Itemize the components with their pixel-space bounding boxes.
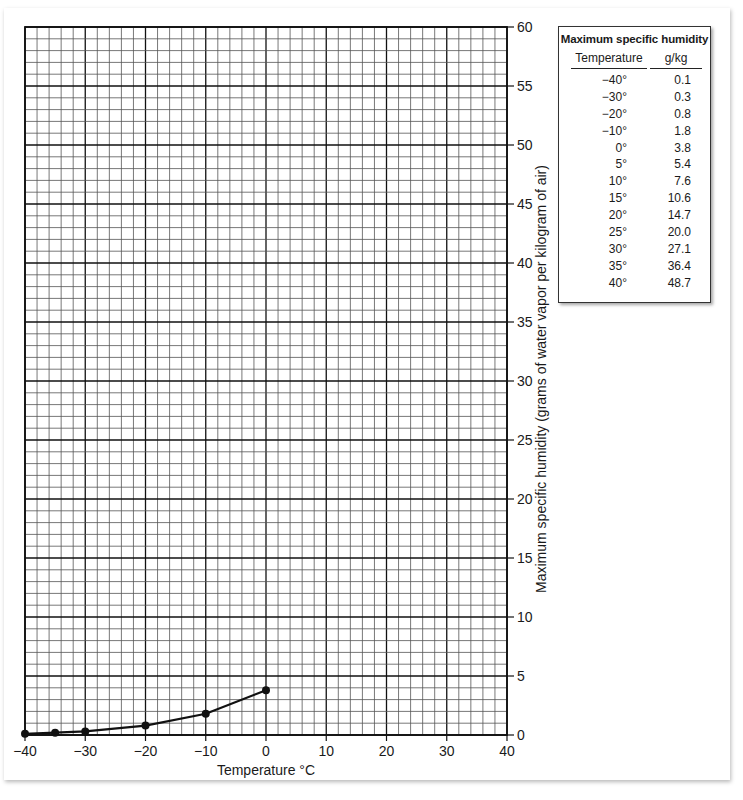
table-row: 0°3.8 [559,140,710,157]
axis-ticks: −40−30−20−100102030400510152025303540455… [13,19,533,759]
cell-value: 14.7 [627,207,691,224]
table-row: 35°36.4 [559,258,710,275]
cell-temperature: 20° [559,207,627,224]
cell-value: 5.4 [627,156,691,173]
x-tick-label: 10 [318,743,334,759]
cell-value: 36.4 [627,258,691,275]
table-row: 10°7.6 [559,173,710,190]
y-tick-label: 40 [517,255,533,271]
table-row: 15°10.6 [559,190,710,207]
cell-temperature: −30° [559,89,627,106]
cell-value: 10.6 [627,190,691,207]
cell-temperature: 10° [559,173,627,190]
table-row: 40°48.7 [559,275,710,292]
cell-temperature: 40° [559,275,627,292]
cell-temperature: −20° [559,106,627,123]
data-point-marker [21,730,29,738]
cell-value: 3.8 [627,140,691,157]
table-title: Maximum specific humidity [559,33,710,45]
cell-value: 1.8 [627,123,691,140]
humidity-data-table: Maximum specific humidity Temperature g/… [558,26,711,303]
data-point-marker [51,729,59,737]
y-tick-label: 5 [517,668,525,684]
y-tick-label: 50 [517,137,533,153]
cell-value: 0.1 [627,72,691,89]
data-point-marker [142,722,150,730]
table-row: 25°20.0 [559,224,710,241]
table-row: 5°5.4 [559,156,710,173]
data-point-marker [81,727,89,735]
table-row: −20°0.8 [559,106,710,123]
cell-temperature: 5° [559,156,627,173]
table-row: −10°1.8 [559,123,710,140]
x-tick-label: −10 [194,743,218,759]
table-body: −40°0.1−30°0.3−20°0.8−10°1.80°3.85°5.410… [559,72,710,292]
y-tick-label: 10 [517,609,533,625]
y-tick-label: 45 [517,196,533,212]
x-tick-label: 0 [262,743,270,759]
x-tick-label: −40 [13,743,37,759]
column-header-gkg: g/kg [650,51,702,69]
y-tick-label: 15 [517,550,533,566]
data-point-marker [202,710,210,718]
cell-temperature: 25° [559,224,627,241]
x-tick-label: −20 [134,743,158,759]
cell-value: 48.7 [627,275,691,292]
x-tick-label: 20 [379,743,395,759]
x-tick-label: 40 [499,743,515,759]
y-tick-label: 35 [517,314,533,330]
table-row: 30°27.1 [559,241,710,258]
table-row: 20°14.7 [559,207,710,224]
y-tick-label: 25 [517,432,533,448]
x-tick-label: 30 [439,743,455,759]
y-tick-label: 30 [517,373,533,389]
y-tick-label: 0 [517,727,525,743]
cell-temperature: 0° [559,140,627,157]
data-point-marker [262,686,270,694]
y-axis-label: Maximum specific humidity (grams of wate… [533,165,549,593]
table-row: −40°0.1 [559,72,710,89]
cell-value: 7.6 [627,173,691,190]
cell-value: 0.3 [627,89,691,106]
y-tick-label: 55 [517,78,533,94]
x-tick-label: −30 [73,743,97,759]
table-row: −30°0.3 [559,89,710,106]
cell-value: 0.8 [627,106,691,123]
cell-value: 20.0 [627,224,691,241]
cell-value: 27.1 [627,241,691,258]
y-tick-label: 60 [517,19,533,35]
chart-grid [25,27,507,735]
cell-temperature: −40° [559,72,627,89]
y-tick-label: 20 [517,491,533,507]
table-header: Temperature g/kg [559,51,710,69]
column-header-temperature: Temperature [571,51,647,69]
cell-temperature: 35° [559,258,627,275]
cell-temperature: 30° [559,241,627,258]
x-axis-label: Temperature °C [217,762,315,778]
cell-temperature: 15° [559,190,627,207]
cell-temperature: −10° [559,123,627,140]
